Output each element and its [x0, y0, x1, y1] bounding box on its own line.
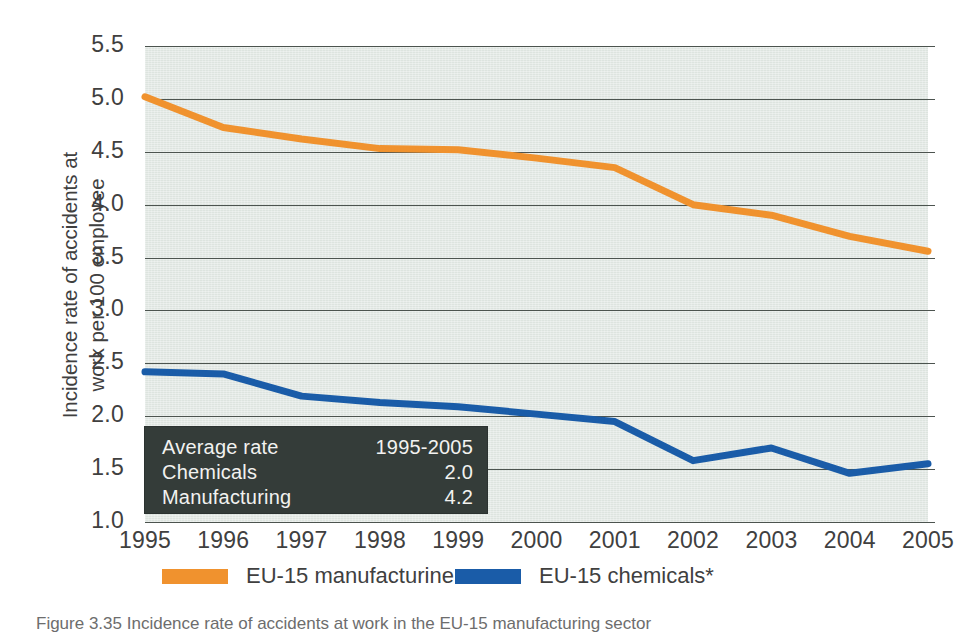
legend-swatch-icon: [455, 569, 521, 584]
average-rate-inset: Average rate1995-2005Chemicals2.0Manufac…: [145, 427, 487, 513]
series-line: [145, 97, 928, 251]
legend-label: EU-15 manufacturine: [246, 563, 454, 589]
inset-row-value: 1995-2005: [376, 436, 473, 459]
inset-row: Average rate1995-2005: [162, 434, 473, 460]
figure-caption: Figure 3.35 Incidence rate of accidents …: [36, 614, 936, 634]
inset-row: Manufacturing4.2: [162, 484, 473, 510]
chart-legend: EU-15 manufacturineEU-15 chemicals*: [145, 563, 905, 589]
inset-row-value: 2.0: [445, 461, 473, 484]
legend-label: EU-15 chemicals*: [539, 563, 714, 589]
inset-row-label: Average rate: [162, 436, 279, 459]
inset-row-label: Manufacturing: [162, 486, 291, 509]
legend-swatch-icon: [162, 569, 228, 584]
inset-row-label: Chemicals: [162, 461, 257, 484]
inset-row-value: 4.2: [445, 486, 473, 509]
legend-item[interactable]: EU-15 chemicals*: [455, 563, 714, 589]
inset-row: Chemicals2.0: [162, 459, 473, 485]
legend-item[interactable]: EU-15 manufacturine: [162, 563, 454, 589]
